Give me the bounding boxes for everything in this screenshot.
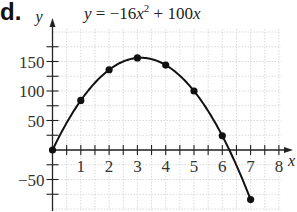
x-tick-label: 1	[77, 157, 86, 176]
x-tick-label: 8	[275, 157, 284, 176]
data-point	[77, 97, 84, 104]
x-tick-label: 7	[246, 157, 255, 176]
data-point	[106, 66, 113, 73]
data-point	[162, 61, 169, 68]
y-tick-label: 100	[19, 82, 45, 101]
y-axis-arrow-icon	[50, 18, 56, 27]
ticks: 12345678−5050100150	[18, 47, 283, 195]
data-point	[247, 196, 254, 203]
y-tick-label: 50	[28, 112, 45, 131]
x-axis-label: x	[287, 152, 295, 169]
axes: yx	[34, 8, 296, 211]
y-tick-label: 150	[19, 53, 45, 72]
x-tick-label: 2	[105, 157, 114, 176]
x-tick-label: 4	[161, 157, 170, 176]
data-point	[134, 54, 141, 61]
grid	[53, 29, 281, 210]
data-point	[219, 132, 226, 139]
parabola-chart: yx 12345678−5050100150	[0, 0, 297, 212]
x-tick-label: 5	[190, 157, 199, 176]
y-tick-label: −50	[18, 171, 45, 190]
data-point	[49, 146, 56, 153]
y-axis-label: y	[34, 8, 44, 26]
data-point	[190, 87, 197, 94]
x-tick-label: 3	[133, 157, 142, 176]
x-tick-label: 6	[218, 157, 227, 176]
